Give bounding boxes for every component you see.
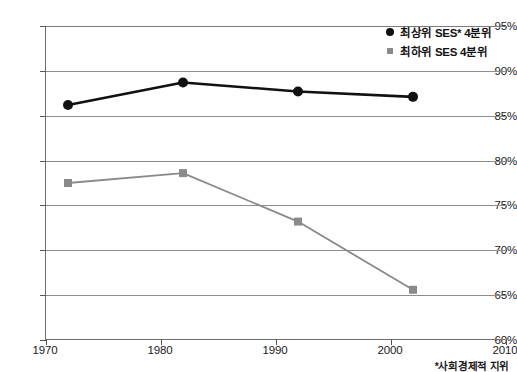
x-axis-tick-label: 1990: [263, 344, 288, 356]
chart-legend: 최상위 SES* 4분위 최하위 SES 4분위: [386, 24, 492, 59]
y-axis-tick: [40, 161, 46, 162]
x-axis-tick-label: 2000: [378, 344, 403, 356]
x-axis-tick-label: 1970: [33, 344, 58, 356]
square-marker-icon: [387, 48, 393, 54]
plot-area: [45, 26, 505, 340]
legend-label-low: 최하위 SES 4분위: [400, 43, 488, 59]
y-axis-tick: [40, 295, 46, 296]
footnote: *사회경제적 지위: [435, 358, 509, 372]
gridline: [46, 250, 506, 251]
y-axis-tick: [40, 250, 46, 251]
y-axis-tick: [40, 116, 46, 117]
y-axis-tick: [40, 26, 46, 27]
gridline: [46, 205, 506, 206]
x-axis-tick-label: 2010: [493, 344, 517, 356]
chart-container: 60%65%70%75%80%85%90%95% 197019801990200…: [0, 0, 517, 372]
legend-item-low[interactable]: 최하위 SES 4분위: [386, 43, 492, 59]
y-axis-tick: [40, 205, 46, 206]
gridline: [46, 116, 506, 117]
circle-marker-icon: [386, 28, 394, 36]
gridline: [46, 161, 506, 162]
legend-item-high[interactable]: 최상위 SES* 4분위: [386, 24, 492, 40]
y-axis-tick: [40, 71, 46, 72]
gridline: [46, 71, 506, 72]
x-axis-tick-label: 1980: [148, 344, 173, 356]
gridline: [46, 295, 506, 296]
legend-label-high: 최상위 SES* 4분위: [400, 24, 492, 40]
